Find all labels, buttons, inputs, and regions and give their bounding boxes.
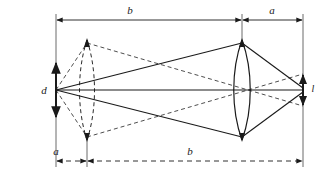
object-height-label: d [41, 84, 47, 96]
top-dimension-chain: b a [57, 4, 302, 20]
dimension-label-top-b: b [127, 4, 133, 16]
ray-solid-upper-out [242, 43, 303, 88]
object-height-arrow: d [41, 63, 56, 117]
lens-dashed-bottom-tip [84, 133, 90, 142]
lens-solid-top-tip [239, 38, 245, 47]
optics-diagram: b a a b [0, 0, 319, 179]
image-height-label: l [312, 83, 315, 94]
bottom-dimension-chain: a b [53, 145, 302, 161]
dimension-label-top-a: a [269, 4, 275, 16]
figure-root: b a a b [0, 0, 319, 179]
lens-solid-bottom-tip [239, 133, 245, 142]
ray-solid-lower-out [242, 92, 303, 137]
image-height-arrow: l [303, 75, 315, 105]
ray-solid-lower-in [56, 90, 242, 137]
dimension-label-bottom-b: b [187, 145, 193, 157]
lens-dashed-top-tip [84, 38, 90, 47]
dimension-label-bottom-a: a [53, 145, 59, 157]
